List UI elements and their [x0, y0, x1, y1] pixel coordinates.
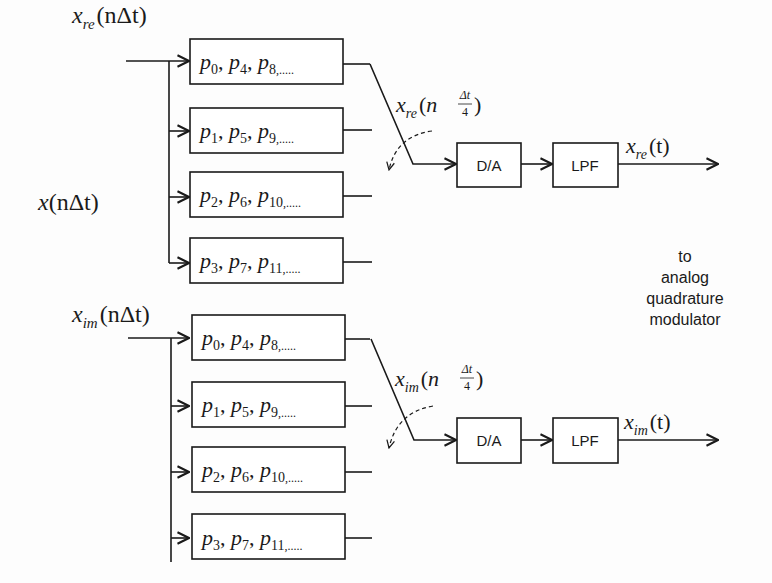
phase-box-im-2: p2, p6, p10,.....	[192, 447, 345, 492]
branch-re: xre(nΔt) p0, p4, p8,..... p1, p5, p9,...…	[71, 2, 718, 283]
branch-im-input-label: xim(nΔt)	[71, 301, 150, 331]
svg-text:4: 4	[464, 379, 470, 393]
svg-text:): )	[476, 366, 483, 391]
svg-text:Δt: Δt	[461, 362, 473, 376]
phase-box-re-1: p1, p5, p9,.....	[190, 108, 343, 153]
dac-box-im: D/A	[457, 418, 521, 463]
lpf-box-re: LPF	[553, 143, 618, 187]
svg-text:D/A: D/A	[476, 157, 501, 174]
overall-input-label: x(nΔt)	[37, 189, 99, 215]
output-label-im: xim(t)	[623, 409, 671, 438]
svg-text:4: 4	[462, 105, 468, 119]
phase-box-re-2: p2, p6, p10,.....	[190, 172, 343, 217]
output-label-re: xre(t)	[625, 133, 670, 162]
note-line: quadrature	[620, 288, 750, 309]
svg-text:LPF: LPF	[571, 432, 599, 449]
dac-box-re: D/A	[457, 143, 521, 187]
polyphase-interpolator-diagram: x(nΔt) xre(nΔt) p0, p4, p8,..... p1, p5,…	[0, 0, 772, 583]
phase-box-im-0: p0, p4, p8,.....	[192, 315, 345, 360]
phase-box-re-3: p3, p7, p11,.....	[190, 238, 343, 283]
destination-note: to analog quadrature modulator	[620, 246, 750, 330]
mux-output-label-im: xim(n Δt 4 )	[394, 362, 483, 395]
branch-re-input-label: xre(nΔt)	[71, 2, 147, 32]
svg-text:LPF: LPF	[571, 157, 599, 174]
svg-text:): )	[474, 92, 481, 117]
svg-text:D/A: D/A	[476, 432, 501, 449]
svg-text:xre(n: xre(n	[395, 92, 437, 121]
svg-text:x(nΔt): x(nΔt)	[37, 189, 99, 215]
lpf-box-im: LPF	[553, 418, 618, 463]
note-line: to	[620, 246, 750, 267]
branch-im: xim(nΔt) p0, p4, p8,..... p1, p5, p9,...…	[71, 301, 718, 562]
phase-box-re-0: p0, p4, p8,.....	[190, 39, 343, 84]
svg-text:xim(n: xim(n	[394, 366, 439, 395]
rotation-arrow-im	[389, 406, 433, 448]
phase-box-im-3: p3, p7, p11,.....	[192, 514, 345, 559]
note-line: modulator	[620, 309, 750, 330]
note-line: analog	[620, 267, 750, 288]
phase-box-im-1: p1, p5, p9,.....	[192, 382, 345, 427]
mux-output-label-re: xre(n Δt 4 )	[395, 88, 481, 121]
svg-text:Δt: Δt	[459, 88, 471, 102]
